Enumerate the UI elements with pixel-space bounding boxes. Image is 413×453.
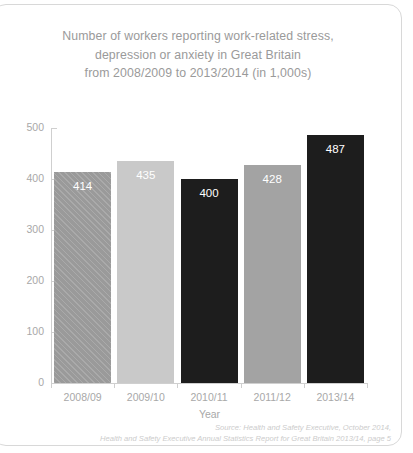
plot-area: 0100200300400500 414435400428487 [51,128,367,383]
y-axis-tick: 500 [51,128,57,129]
x-axis-tick [367,383,368,388]
chart-title-line-2: depression or anxiety in Great Britain [1,46,395,65]
x-axis-tick [304,383,305,388]
source-line-1: Source: Health and Safety Executive, Oct… [5,423,391,434]
bar[interactable]: 435 [117,161,174,383]
bar-value-label: 414 [54,180,111,192]
bar-value-label: 487 [307,143,364,155]
bar[interactable]: 487 [307,135,364,383]
x-axis-tick-label: 2013/14 [304,391,367,403]
x-axis-tick-label: 2011/12 [241,391,304,403]
source-line-2: Health and Safety Executive Annual Stati… [5,434,391,445]
source-note: Source: Health and Safety Executive, Oct… [5,423,391,444]
chart-title: Number of workers reporting work-related… [1,27,395,83]
bar[interactable]: 428 [244,165,301,383]
x-axis-tick-label: 2009/10 [114,391,177,403]
bar-value-label: 400 [181,187,238,199]
y-axis-tick-label: 0 [38,376,44,388]
y-axis-tick-label: 100 [26,325,44,337]
x-axis-title: Year [51,408,368,420]
y-axis-tick-label: 300 [26,223,44,235]
x-axis-tick [51,383,52,388]
x-axis-tick [114,383,115,388]
chart-card: Number of workers reporting work-related… [0,4,402,446]
chart-title-line-3: from 2008/2009 to 2013/2014 (in 1,000s) [1,64,395,83]
x-axis-line [51,383,368,384]
chart-title-line-1: Number of workers reporting work-related… [1,27,395,46]
bar-value-label: 428 [244,173,301,185]
y-axis-tick-label: 500 [26,121,44,133]
y-axis-tick-label: 200 [26,274,44,286]
bar[interactable]: 400 [181,179,238,383]
x-axis-tick-label: 2010/11 [177,391,240,403]
x-axis-tick [177,383,178,388]
bar[interactable]: 414 [54,172,111,383]
y-axis-tick-label: 400 [26,172,44,184]
bar-value-label: 435 [117,169,174,181]
x-axis-tick [241,383,242,388]
x-axis-tick-label: 2008/09 [51,391,114,403]
